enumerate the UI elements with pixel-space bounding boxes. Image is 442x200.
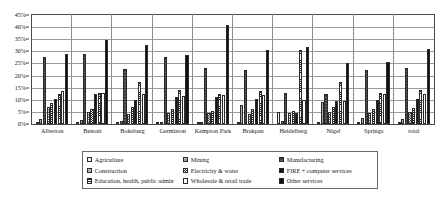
- legend-item-label: Electricity & water: [191, 167, 238, 174]
- y-axis-tick-mark: [26, 75, 29, 76]
- bar-manufacturing: [365, 70, 368, 125]
- y-axis-tick-label: 20%: [15, 73, 26, 79]
- bar-education-health-public-admin: [419, 90, 422, 124]
- bar-groups: [32, 15, 434, 124]
- y-axis-tick-mark: [26, 63, 29, 64]
- bar-electricity-water: [332, 107, 335, 124]
- bar-fire-computer-services: [295, 113, 298, 124]
- bar-agriculture: [398, 122, 401, 124]
- x-axis-label: total: [394, 127, 434, 147]
- x-axis-label: Benoni: [72, 127, 112, 147]
- bar-wholesale-retail-trade: [182, 96, 185, 124]
- bar-electricity-water: [292, 111, 295, 124]
- bar-agriculture: [317, 122, 320, 124]
- legend-item[interactable]: Construction: [87, 165, 181, 176]
- legend-item-label: Other services: [287, 177, 323, 184]
- legend-item[interactable]: Other services: [279, 176, 373, 187]
- bar-wholesale-retail-trade: [302, 100, 305, 124]
- legend-item[interactable]: Agriculture: [87, 155, 181, 166]
- bar-manufacturing: [284, 93, 287, 124]
- legend-swatch-icon: [183, 178, 188, 183]
- x-axis-label: Kempton Park: [193, 127, 233, 147]
- y-axis-tick-label: 15%: [15, 85, 26, 91]
- bar-other-services: [346, 63, 349, 124]
- bar-agriculture: [277, 112, 280, 124]
- bar-construction: [408, 112, 411, 124]
- x-axis-labels: AlbertonBenoniBoksburgGermistonKempton P…: [32, 127, 434, 147]
- y-axis-tick-label: 5%: [18, 109, 26, 115]
- bar-wholesale-retail-trade: [383, 94, 386, 124]
- bar-education-health-public-admin: [138, 82, 141, 124]
- y-axis-tick-mark: [26, 99, 29, 100]
- bar-manufacturing: [43, 57, 46, 124]
- bar-construction: [47, 107, 50, 124]
- bar-mining: [160, 122, 163, 124]
- bar-manufacturing: [244, 70, 247, 125]
- bar-education-health-public-admin: [178, 90, 181, 124]
- bar-fire-computer-services: [335, 101, 338, 124]
- y-axis-tick-label: 30%: [15, 48, 26, 54]
- bar-fire-computer-services: [134, 100, 137, 124]
- x-axis-label: Nigel: [313, 127, 353, 147]
- bar-agriculture: [197, 122, 200, 124]
- bar-education-health-public-admin: [218, 94, 221, 124]
- bar-group: [394, 15, 434, 124]
- legend-item-label: Agriculture: [95, 156, 124, 163]
- x-axis-label: Heidelberg: [273, 127, 313, 147]
- legend-item[interactable]: Electricity & water: [183, 165, 277, 176]
- legend-item[interactable]: Wholesale & retail trade: [183, 176, 277, 187]
- x-axis-label: Germiston: [153, 127, 193, 147]
- legend-item-label: Education, health, public admin: [95, 177, 174, 184]
- bar-wholesale-retail-trade: [423, 94, 426, 124]
- legend-item[interactable]: Manufacturing: [279, 155, 373, 166]
- legend-swatch-icon: [279, 178, 284, 183]
- x-axis-label: Springs: [354, 127, 394, 147]
- legend-item[interactable]: Mining: [183, 155, 277, 166]
- legend-item[interactable]: Education, health, public admin: [87, 176, 181, 187]
- bar-electricity-water: [171, 109, 174, 124]
- x-axis-label: Alberton: [32, 127, 72, 147]
- bar-construction: [288, 113, 291, 124]
- y-axis-tick-mark: [26, 39, 29, 40]
- legend-swatch-icon: [279, 168, 284, 173]
- y-axis-tick-mark: [26, 111, 29, 112]
- bar-wholesale-retail-trade: [343, 101, 346, 124]
- y-axis-tick-label: 0%: [18, 121, 26, 127]
- bar-agriculture: [237, 122, 240, 124]
- y-axis-tick-label: 25%: [15, 60, 26, 66]
- bar-agriculture: [76, 122, 79, 124]
- legend-swatch-icon: [87, 157, 92, 162]
- bar-other-services: [145, 45, 148, 124]
- bar-group: [32, 15, 72, 124]
- bar-construction: [328, 112, 331, 124]
- bar-fire-computer-services: [215, 97, 218, 124]
- y-axis-tick-label: 45%: [15, 12, 26, 18]
- bar-electricity-water: [372, 109, 375, 124]
- y-axis-tick-label: 35%: [15, 36, 26, 42]
- bar-group: [313, 15, 353, 124]
- bar-group: [112, 15, 152, 124]
- bar-group: [233, 15, 273, 124]
- legend-item[interactable]: FIRE + computer services: [279, 165, 373, 176]
- bar-construction: [127, 114, 130, 124]
- bar-manufacturing: [123, 69, 126, 124]
- bar-fire-computer-services: [175, 97, 178, 124]
- bar-agriculture: [156, 122, 159, 124]
- chart-container: 0%5%10%15%20%25%30%35%40%45% AlbertonBen…: [0, 0, 442, 200]
- legend-grid: AgricultureMiningManufacturingConstructi…: [87, 155, 373, 187]
- bar-other-services: [105, 40, 108, 124]
- bar-group: [72, 15, 112, 124]
- bar-agriculture: [36, 122, 39, 124]
- bar-education-health-public-admin: [98, 93, 101, 124]
- legend-item-label: FIRE + computer services: [287, 167, 352, 174]
- bar-education-health-public-admin: [379, 93, 382, 124]
- legend-swatch-icon: [279, 157, 284, 162]
- bar-fire-computer-services: [416, 99, 419, 124]
- x-axis-label: Brakpan: [233, 127, 273, 147]
- bar-construction: [87, 112, 90, 124]
- bar-group: [354, 15, 394, 124]
- y-axis-tick-mark: [26, 51, 29, 52]
- bar-electricity-water: [251, 109, 254, 124]
- y-axis-tick-mark: [26, 87, 29, 88]
- bar-manufacturing: [204, 68, 207, 124]
